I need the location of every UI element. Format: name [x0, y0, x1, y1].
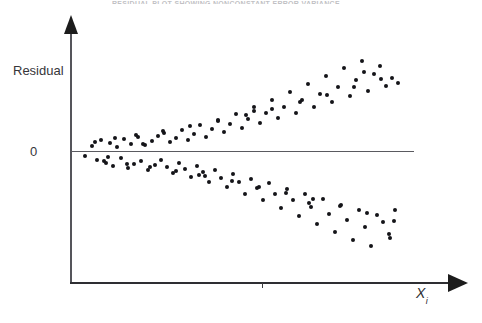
scatter-point — [252, 109, 256, 113]
scatter-point — [276, 116, 280, 120]
scatter-point — [279, 206, 283, 210]
scatter-point — [354, 78, 358, 82]
scatter-point — [153, 163, 157, 167]
scatter-point — [288, 90, 292, 94]
scatter-point — [198, 123, 202, 127]
scatter-point — [207, 180, 211, 184]
scatter-point — [378, 64, 382, 68]
scatter-point — [222, 130, 226, 134]
x-axis-tick-mark — [262, 283, 263, 288]
scatter-point — [369, 244, 373, 248]
scatter-point — [351, 238, 355, 242]
scatter-point — [249, 177, 253, 181]
scatter-point — [336, 85, 340, 89]
scatter-point — [111, 164, 115, 168]
scatter-point — [168, 140, 172, 144]
scatter-point — [99, 138, 103, 142]
scatter-point — [363, 225, 367, 229]
scatter-point — [303, 192, 307, 196]
scatter-point — [352, 85, 356, 89]
scatter-point — [291, 198, 295, 202]
y-axis-line — [70, 30, 72, 284]
scatter-point — [115, 145, 119, 149]
scatter-point — [325, 93, 329, 97]
scatter-point — [150, 139, 154, 143]
scatter-point — [270, 107, 274, 111]
scatter-point — [379, 77, 383, 81]
scatter-point — [345, 218, 349, 222]
scatter-point — [195, 164, 199, 168]
scatter-point — [270, 98, 274, 102]
scatter-point — [83, 154, 87, 158]
scatter-point — [159, 158, 163, 162]
y-axis-arrowhead-icon — [64, 15, 78, 34]
zero-reference-line — [71, 151, 414, 152]
scatter-point — [297, 214, 301, 218]
scatter-point — [189, 175, 193, 179]
scatter-point — [309, 205, 313, 209]
scatter-point — [177, 161, 181, 165]
scatter-point — [119, 156, 123, 160]
scatter-point — [197, 173, 201, 177]
scatter-point — [257, 185, 261, 189]
scatter-point — [219, 176, 223, 180]
x-axis-label-base: X — [416, 285, 425, 301]
scatter-point — [156, 134, 160, 138]
scatter-point — [139, 159, 143, 163]
scatter-point — [261, 198, 265, 202]
x-axis-label: Xi — [416, 285, 427, 304]
scatter-point — [388, 236, 392, 240]
scatter-point — [312, 105, 316, 109]
scatter-point — [362, 70, 366, 74]
scatter-point — [230, 179, 234, 183]
scatter-point — [231, 172, 235, 176]
scatter-point — [148, 165, 152, 169]
scatter-point — [243, 192, 247, 196]
scatter-point — [132, 162, 136, 166]
scatter-point — [186, 138, 190, 142]
plot-area — [0, 0, 482, 323]
scatter-point — [246, 117, 250, 121]
scatter-point — [258, 121, 262, 125]
scatter-point — [240, 126, 244, 130]
scatter-point — [311, 197, 315, 201]
scatter-point — [203, 174, 207, 178]
scatter-point — [174, 169, 178, 173]
scatter-point — [126, 166, 130, 170]
scatter-point — [315, 222, 319, 226]
x-axis-line — [70, 282, 466, 284]
scatter-point — [357, 208, 361, 212]
scatter-point — [204, 135, 208, 139]
scatter-point — [324, 74, 328, 78]
scatter-point — [234, 112, 238, 116]
scatter-point — [306, 82, 310, 86]
scatter-point — [216, 119, 220, 123]
scatter-point — [106, 155, 110, 159]
scatter-point — [267, 181, 271, 185]
scatter-point — [366, 89, 370, 93]
scatter-point — [372, 72, 376, 76]
scatter-point — [188, 124, 192, 128]
scatter-point — [165, 165, 169, 169]
scatter-point — [321, 197, 325, 201]
scatter-point — [93, 140, 97, 144]
y-zero-tick-label: 0 — [30, 144, 37, 159]
scatter-point — [360, 59, 364, 63]
scatter-point — [348, 94, 352, 98]
scatter-point — [381, 220, 385, 224]
scatter-point — [392, 219, 396, 223]
scatter-point — [384, 84, 388, 88]
scatter-point — [210, 127, 214, 131]
scatter-point — [228, 122, 232, 126]
scatter-point — [237, 180, 241, 184]
y-axis-label: Residual — [13, 63, 64, 78]
scatter-point — [264, 111, 268, 115]
scatter-point — [192, 132, 196, 136]
scatter-point — [213, 168, 217, 172]
scatter-point — [327, 212, 331, 216]
scatter-point — [333, 230, 337, 234]
scatter-point — [108, 141, 112, 145]
scatter-point — [284, 191, 288, 195]
scatter-point — [122, 137, 126, 141]
scatter-point — [375, 213, 379, 217]
